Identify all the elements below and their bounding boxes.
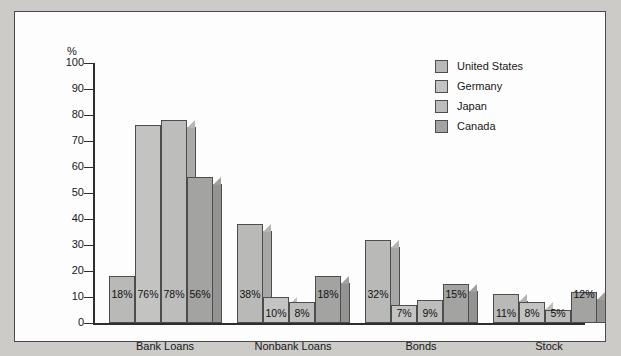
y-axis-tick-70: [84, 141, 93, 142]
y-axis-tick-100: [84, 63, 93, 64]
y-axis-tick-20: [84, 271, 93, 272]
bar[interactable]: 5%: [545, 310, 571, 323]
bar-group: 18%76%78%56%: [109, 63, 221, 323]
bar-top-face: [597, 292, 605, 300]
y-axis-tick-label-40: 40: [54, 213, 84, 224]
bar[interactable]: 8%: [519, 302, 545, 323]
bar-side-face: [469, 291, 478, 323]
legend-item-label: Canada: [457, 121, 496, 132]
bar-group: 38%10%8%18%: [237, 63, 349, 323]
bar[interactable]: 9%: [417, 300, 443, 323]
legend-swatch-icon: [435, 120, 448, 133]
legend-item[interactable]: Japan: [435, 96, 523, 116]
bar-top-face: [545, 302, 553, 310]
bar-top-face: [341, 276, 349, 284]
bar-front-face: [545, 310, 571, 323]
bar[interactable]: 18%: [315, 276, 341, 323]
y-axis-tick-80: [84, 115, 93, 116]
y-axis-tick-60: [84, 167, 93, 168]
y-axis-tick-10: [84, 297, 93, 298]
y-axis-tick-label-10: 10: [54, 291, 84, 302]
x-axis-line: [93, 323, 585, 325]
legend-item[interactable]: United States: [435, 56, 523, 76]
bar-side-face: [213, 184, 222, 323]
bar-front-face: [519, 302, 545, 323]
bar-front-face: [571, 292, 597, 323]
bar-front-face: [391, 305, 417, 323]
bar-front-face: [289, 302, 315, 323]
bar-front-face: [237, 224, 263, 323]
legend-swatch-icon: [435, 100, 448, 113]
bar[interactable]: 38%: [237, 224, 263, 323]
y-axis-tick-0: [84, 323, 93, 324]
y-axis-tick-40: [84, 219, 93, 220]
y-axis-tick-label-30: 30: [54, 239, 84, 250]
x-axis-category-label: Bank Loans: [109, 341, 221, 352]
bar-top-face: [187, 120, 195, 128]
bar-top-face: [519, 294, 527, 302]
legend-swatch-icon: [435, 80, 448, 93]
x-axis-category-label: Nonbank Loans: [237, 341, 349, 352]
legend: United StatesGermanyJapanCanada: [435, 56, 523, 136]
bar[interactable]: 76%: [135, 125, 161, 323]
y-axis-tick-label-70: 70: [54, 135, 84, 146]
bar-front-face: [315, 276, 341, 323]
legend-item[interactable]: Germany: [435, 76, 523, 96]
y-axis-line: [93, 63, 95, 325]
bar[interactable]: 12%: [571, 292, 597, 323]
x-axis-category-label: Stock: [493, 341, 605, 352]
legend-item[interactable]: Canada: [435, 116, 523, 136]
bar[interactable]: 18%: [109, 276, 135, 323]
bar-top-face: [213, 177, 221, 185]
bar-front-face: [109, 276, 135, 323]
bar[interactable]: 78%: [161, 120, 187, 323]
bar[interactable]: 15%: [443, 284, 469, 323]
bar-top-face: [391, 240, 399, 248]
y-axis-tick-30: [84, 245, 93, 246]
legend-item-label: United States: [457, 61, 523, 72]
y-axis-tick-label-60: 60: [54, 161, 84, 172]
figure-frame: % 1009080706050403020100 18%76%78%56%38%…: [0, 0, 621, 356]
y-axis-tick-50: [84, 193, 93, 194]
y-axis-tick-label-50: 50: [54, 187, 84, 198]
bar-side-face: [341, 283, 350, 323]
bar[interactable]: 56%: [187, 177, 213, 323]
y-axis-tick-label-20: 20: [54, 265, 84, 276]
bar[interactable]: 11%: [493, 294, 519, 323]
bar-top-face: [263, 224, 271, 232]
bar-side-face: [597, 299, 606, 323]
bar-front-face: [365, 240, 391, 323]
bar-top-face: [469, 284, 477, 292]
bar[interactable]: 10%: [263, 297, 289, 323]
bar-front-face: [135, 125, 161, 323]
bar-front-face: [493, 294, 519, 323]
legend-swatch-icon: [435, 60, 448, 73]
y-axis-tick-label-80: 80: [54, 109, 84, 120]
bar-front-face: [161, 120, 187, 323]
y-axis-tick-90: [84, 89, 93, 90]
y-axis-tick-label-0: 0: [54, 317, 84, 328]
bar-front-face: [187, 177, 213, 323]
bar[interactable]: 7%: [391, 305, 417, 323]
bar-front-face: [263, 297, 289, 323]
chart-plate: % 1009080706050403020100 18%76%78%56%38%…: [14, 11, 606, 342]
legend-item-label: Japan: [457, 101, 487, 112]
legend-item-label: Germany: [457, 81, 502, 92]
y-axis-tick-label-90: 90: [54, 83, 84, 94]
bar[interactable]: 8%: [289, 302, 315, 323]
bar-front-face: [417, 300, 443, 323]
bar[interactable]: 32%: [365, 240, 391, 323]
y-axis-tick-labels: 1009080706050403020100: [50, 63, 84, 325]
y-axis-tick-label-100: 100: [54, 57, 84, 68]
bar-front-face: [443, 284, 469, 323]
x-axis-category-label: Bonds: [365, 341, 477, 352]
